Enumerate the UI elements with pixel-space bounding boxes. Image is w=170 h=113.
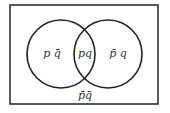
region-not-p-q-label: p̄ q (109, 47, 127, 60)
venn-diagram: p q̄ pq p̄ q p̄q̄ (0, 0, 170, 113)
region-p-and-q-label: pq (78, 47, 92, 60)
region-p-not-q-label: p q̄ (43, 47, 61, 60)
region-neither-label: p̄q̄ (78, 89, 92, 102)
